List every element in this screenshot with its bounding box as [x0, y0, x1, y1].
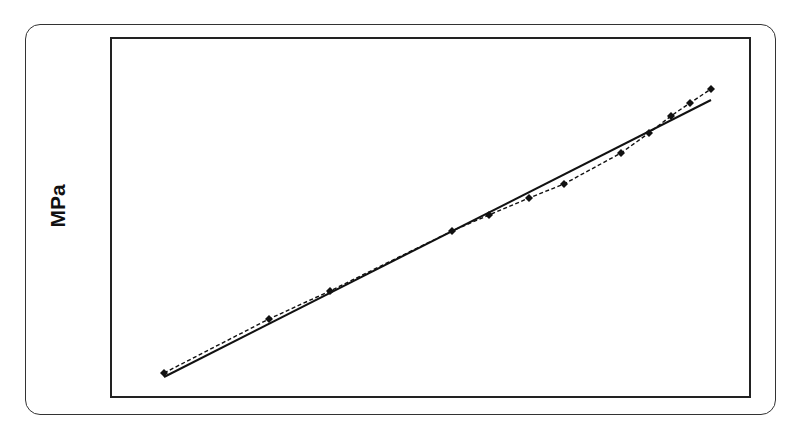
fit-line: [164, 100, 711, 377]
plot-area: [111, 38, 750, 397]
data-point-marker: [560, 180, 568, 188]
data-point-marker: [686, 99, 694, 107]
data-point-marker: [525, 194, 533, 202]
linear-fit-line: [164, 100, 711, 377]
data-point-marker: [485, 211, 493, 219]
chart-plot: [0, 0, 801, 438]
measured-line: [164, 89, 711, 373]
data-point-marker: [448, 227, 456, 235]
data-series: [160, 85, 715, 377]
data-point-marker: [617, 149, 625, 157]
data-point-marker: [707, 85, 715, 93]
